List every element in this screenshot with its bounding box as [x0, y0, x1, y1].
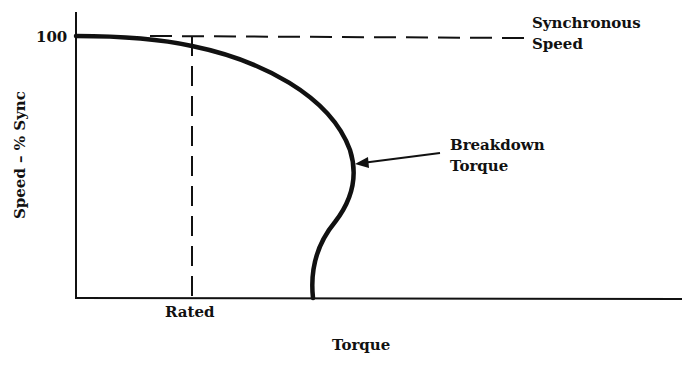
- breakdown-label-1: Breakdown: [450, 136, 545, 154]
- speed-torque-curve: [76, 36, 354, 298]
- speed-torque-chart: [0, 0, 682, 366]
- rated-label: Rated: [165, 303, 215, 321]
- x-axis-label: Torque: [332, 336, 390, 354]
- x-axis: [75, 298, 682, 299]
- y-tick-100: 100: [36, 28, 67, 46]
- arrowhead-icon: [355, 157, 369, 168]
- breakdown-label-2: Torque: [450, 157, 508, 175]
- sync-speed-label-1: Synchronous: [532, 14, 641, 32]
- breakdown-arrow: [362, 153, 440, 163]
- y-axis-label: Speed – % Sync: [11, 99, 29, 219]
- sync-speed-label-2: Speed: [532, 35, 583, 53]
- synchronous-speed-line: [150, 36, 525, 38]
